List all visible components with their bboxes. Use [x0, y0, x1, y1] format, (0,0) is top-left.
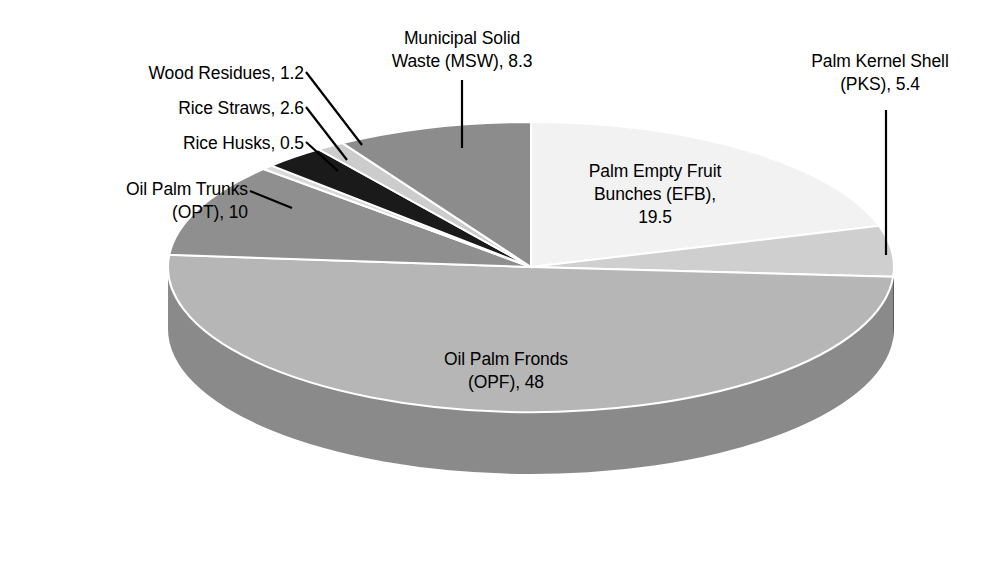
pie-3d-group: [168, 122, 894, 474]
slice-label-opt: Oil Palm Trunks (OPT), 10: [18, 178, 248, 224]
slice-label-pks: Palm Kernel Shell (PKS), 5.4: [780, 50, 980, 96]
slice-label-rice-straws: Rice Straws, 2.6: [130, 97, 304, 120]
slice-label-wood-residues: Wood Residues, 1.2: [100, 62, 304, 85]
slice-label-opf: Oil Palm Fronds (OPF), 48: [398, 348, 614, 394]
slice-label-efb: Palm Empty Fruit Bunches (EFB), 19.5: [562, 160, 748, 229]
slice-label-rice-husks: Rice Husks, 0.5: [105, 132, 304, 155]
slice-label-msw: Municipal Solid Waste (MSW), 8.3: [362, 27, 562, 73]
leader-line-wood: [306, 72, 362, 145]
pie-chart-figure: Municipal Solid Waste (MSW), 8.3 Wood Re…: [0, 0, 999, 581]
